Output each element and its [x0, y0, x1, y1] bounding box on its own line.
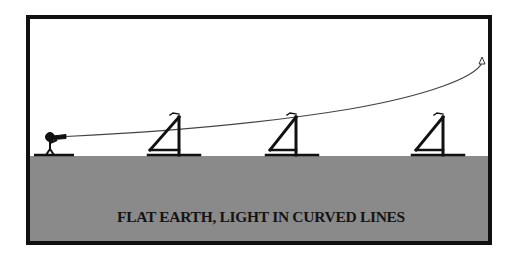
diagram-frame: FLAT EARTH, LIGHT IN CURVED LINES — [26, 15, 492, 245]
ship-icon — [412, 113, 464, 155]
light-path-curve — [66, 63, 482, 137]
ship-icon — [148, 113, 200, 155]
arrowhead-icon — [479, 57, 485, 64]
diagram-caption: FLAT EARTH, LIGHT IN CURVED LINES — [30, 208, 490, 226]
